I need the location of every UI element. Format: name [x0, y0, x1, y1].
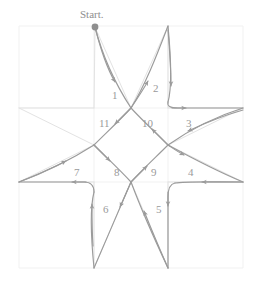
grid-lines	[19, 26, 243, 268]
start-dot	[92, 24, 99, 31]
arrow-segment-6	[120, 182, 131, 207]
arrow-segment-7	[19, 161, 66, 182]
star-edge	[131, 26, 168, 108]
star-edge	[19, 145, 94, 182]
segment-label-3: 3	[186, 118, 192, 129]
arrow-segment-3	[188, 110, 243, 131]
arrow-segment-10	[152, 129, 168, 145]
segment-label-1: 1	[112, 90, 118, 101]
path-segment-3-corner	[168, 102, 243, 108]
star-polygon-edges	[19, 26, 243, 268]
star-edge	[19, 108, 94, 145]
segment-label-7: 7	[74, 167, 80, 178]
segment-label-6: 6	[103, 204, 109, 215]
arrow-segment-9	[131, 166, 147, 182]
arrow-segment-2	[131, 81, 148, 108]
segment-label-8: 8	[114, 167, 120, 178]
path-segment-7-corner	[19, 182, 94, 192]
star-traversal-figure: Start. 1 2 3 4 5 6 7 8 9 10 11	[0, 0, 261, 284]
arrow-segment-8	[94, 145, 110, 161]
segment-label-4: 4	[188, 167, 194, 178]
segment-label-5: 5	[156, 204, 162, 215]
segment-label-11: 11	[99, 118, 110, 129]
arrow-segment-5	[144, 211, 168, 268]
figure-canvas	[0, 0, 261, 284]
arrow-segment-11	[115, 108, 131, 124]
traversal-path	[19, 26, 243, 268]
segment-label-10: 10	[142, 118, 153, 129]
path-segment-5-corner	[168, 183, 175, 268]
segment-label-9: 9	[151, 167, 157, 178]
segment-label-2: 2	[153, 83, 159, 94]
start-label: Start.	[80, 9, 104, 20]
arrow-segment-4	[168, 145, 184, 155]
arrow-segment-6b	[92, 204, 93, 246]
